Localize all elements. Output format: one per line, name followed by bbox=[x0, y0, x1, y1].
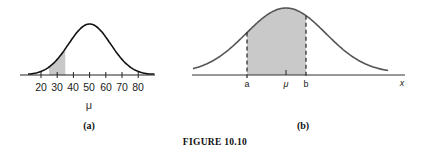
panel-b-marker-a: a bbox=[244, 79, 249, 89]
panel-a-tick-label: 20 bbox=[35, 81, 47, 93]
panel-a: 20 30 40 50 60 70 80 μ (a) bbox=[20, 24, 155, 132]
figure-svg: 20 30 40 50 60 70 80 μ (a) a μ b x (b) F… bbox=[0, 0, 422, 156]
panel-a-tick-label: 40 bbox=[67, 81, 79, 93]
panel-b-marker-mu: μ bbox=[283, 79, 289, 89]
figure-caption: FIGURE 10.10 bbox=[183, 137, 247, 147]
panel-b-label: (b) bbox=[297, 120, 309, 132]
panel-b-x-axis-label: x bbox=[399, 78, 405, 88]
panel-a-tick-label: 60 bbox=[100, 81, 112, 93]
panel-a-tick-label: 70 bbox=[116, 81, 128, 93]
panel-b-shaded-region bbox=[247, 8, 306, 75]
panel-b: a μ b x (b) bbox=[192, 8, 405, 132]
panel-a-normal-curve bbox=[28, 24, 154, 74]
panel-b-marker-b: b bbox=[303, 79, 308, 89]
figure-10-10: 20 30 40 50 60 70 80 μ (a) a μ b x (b) F… bbox=[0, 0, 422, 156]
panel-a-label: (a) bbox=[83, 120, 95, 132]
panel-a-tick-label: 50 bbox=[83, 81, 95, 93]
panel-a-tick-label: 30 bbox=[51, 81, 63, 93]
panel-a-x-axis-label: μ bbox=[86, 99, 92, 111]
panel-a-tick-label: 80 bbox=[132, 81, 144, 93]
